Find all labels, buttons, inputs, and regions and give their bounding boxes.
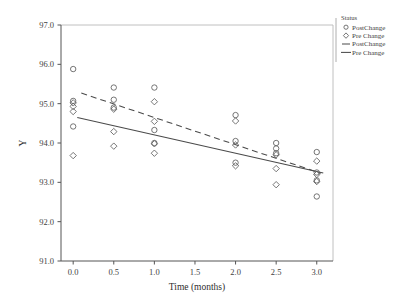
scatter-plot-figure: 91.092.093.094.095.096.097.00.00.51.01.5… (0, 0, 411, 307)
legend-entry-label: PostChange (352, 40, 385, 48)
data-point-circle (314, 149, 319, 154)
y-axis-tick-label: 95.0 (39, 99, 54, 109)
legend-title: Status (341, 14, 358, 21)
y-axis-title: Y (18, 139, 28, 146)
data-point-circle (152, 127, 157, 132)
data-point-diamond (151, 150, 157, 156)
y-axis-tick-label: 97.0 (39, 20, 54, 30)
data-point-circle (152, 85, 157, 90)
fit-line-dashed (81, 93, 321, 173)
y-axis-tick-label: 91.0 (39, 256, 54, 266)
data-point-diamond (314, 158, 320, 164)
data-point-diamond (111, 128, 117, 134)
data-point-diamond (151, 99, 157, 105)
x-axis-tick-label: 1.5 (190, 267, 201, 277)
data-point-circle (111, 97, 116, 102)
legend-entry-label: Pre Change (352, 32, 384, 40)
y-axis-tick-label: 92.0 (39, 217, 54, 227)
x-axis-tick-label: 1.0 (149, 267, 160, 277)
data-point-circle (233, 112, 238, 117)
x-axis-tick-label: 3.0 (311, 267, 322, 277)
x-axis-tick-label: 2.5 (271, 267, 282, 277)
data-point-diamond (151, 118, 157, 124)
legend-entry-label: PostChange (352, 24, 385, 32)
data-point-diamond (70, 152, 76, 158)
legend-marker-circle (344, 25, 348, 29)
data-point-circle (70, 66, 75, 71)
x-axis-title: Time (months) (169, 282, 225, 293)
y-axis-tick-label: 96.0 (39, 59, 54, 69)
y-axis-tick-label: 93.0 (39, 177, 54, 187)
legend-marker-diamond (343, 33, 348, 38)
legend-entry-label: Pre Change (352, 49, 384, 57)
data-point-circle (273, 140, 278, 145)
data-point-diamond (273, 181, 279, 187)
data-point-circle (70, 124, 75, 129)
data-point-circle (233, 138, 238, 143)
data-point-circle (314, 194, 319, 199)
x-axis-tick-label: 0.0 (68, 267, 79, 277)
data-point-diamond (111, 143, 117, 149)
plot-frame (61, 25, 333, 261)
fit-line-solid (77, 117, 323, 172)
x-axis-tick-label: 0.5 (108, 267, 119, 277)
data-point-diamond (232, 118, 238, 124)
x-axis-tick-label: 2.0 (230, 267, 241, 277)
data-point-diamond (273, 165, 279, 171)
chart-canvas: 91.092.093.094.095.096.097.00.00.51.01.5… (0, 0, 411, 307)
data-point-circle (111, 85, 116, 90)
y-axis-tick-label: 94.0 (39, 138, 54, 148)
